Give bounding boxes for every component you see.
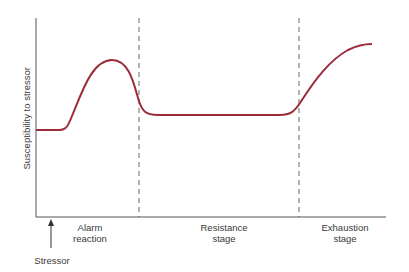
stressor-label: Stressor: [30, 255, 74, 266]
stage-label-resistance: Resistance stage: [184, 222, 264, 244]
stage-label-line: stage: [184, 233, 264, 244]
stage-label-exhaustion: Exhaustion stage: [310, 222, 380, 244]
stage-label-line: reaction: [60, 233, 120, 244]
stage-label-line: Exhaustion: [310, 222, 380, 233]
stage-label-alarm: Alarm reaction: [60, 222, 120, 244]
y-axis-label: Susceptibility to stressor: [21, 70, 32, 170]
stage-label-line: stage: [310, 233, 380, 244]
stage-label-line: Resistance: [184, 222, 264, 233]
susceptibility-curve: [36, 44, 372, 130]
stage-label-line: Alarm: [60, 222, 120, 233]
arrow-head-icon: [48, 219, 54, 226]
